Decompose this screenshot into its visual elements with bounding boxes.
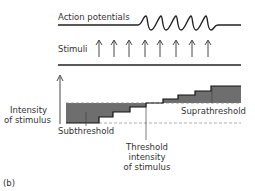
suprathreshold-label: Suprathreshold <box>181 106 246 116</box>
subthreshold-region <box>66 103 146 123</box>
action-potentials-label: Action potentials <box>58 12 130 22</box>
stimulus-arrow-icon <box>96 40 102 57</box>
threshold-label-line3: of stimulus <box>124 162 171 172</box>
threshold-label-line2: intensity <box>129 152 166 162</box>
y-axis-label-line1: Intensity <box>10 105 47 115</box>
stimulus-arrow-icon <box>189 40 195 57</box>
stimulus-arrow-icon <box>142 40 148 57</box>
stimulus-arrow-icon <box>157 40 163 57</box>
stimulus-arrows <box>96 40 211 57</box>
stimulus-arrow-icon <box>173 40 179 57</box>
subthreshold-label: Subthreshold <box>58 126 114 136</box>
suprathreshold-region <box>163 86 241 103</box>
stimulus-arrow-icon <box>205 40 211 57</box>
stimulus-arrow-icon <box>126 40 132 57</box>
stimuli-label: Stimuli <box>58 44 87 54</box>
stimulus-threshold-diagram: Action potentials Stimuli Intensity of s… <box>0 0 255 191</box>
y-axis-arrow-icon <box>57 75 63 124</box>
y-axis-label-line2: of stimulus <box>4 115 51 125</box>
panel-label: (b) <box>3 178 15 188</box>
threshold-label-line1: Threshold <box>125 142 168 152</box>
stimulus-arrow-icon <box>111 40 117 57</box>
